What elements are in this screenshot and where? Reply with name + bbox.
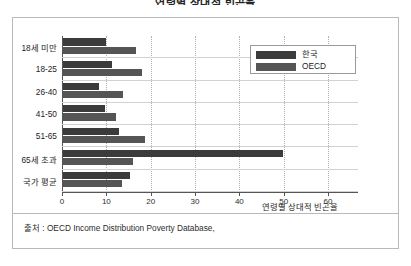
bar-row: 65세 초과	[62, 147, 328, 169]
legend-swatch-oecd	[256, 63, 296, 71]
chart-screenshot: 연령별 상대적 빈곤율 0102030405060 18세 미만18-2526-…	[0, 0, 411, 266]
x-tick-60	[328, 193, 329, 196]
x-tick-label-10: 10	[102, 197, 111, 206]
x-tick-20	[151, 193, 152, 196]
bar-oecd	[63, 136, 145, 143]
bar-row: 51-65	[62, 125, 328, 147]
bar-korea	[63, 105, 105, 112]
category-label: 26-40	[36, 87, 57, 97]
category-label: 51-65	[36, 131, 57, 141]
bar-oecd	[63, 47, 136, 54]
category-label: 18세 미만	[21, 41, 57, 53]
bar-korea	[63, 128, 119, 135]
x-tick-label-40: 40	[235, 197, 244, 206]
bar-oecd	[63, 113, 116, 120]
chart-title: 연령별 상대적 빈곤율	[0, 0, 411, 5]
bar-oecd	[63, 69, 142, 76]
bar-korea	[63, 38, 106, 45]
bar-oecd	[63, 91, 123, 98]
chart-legend: 한국 OECD	[250, 45, 356, 74]
x-tick-0	[62, 193, 63, 196]
category-label: 65세 초과	[21, 153, 57, 165]
x-tick-10	[106, 193, 107, 196]
bar-row: 41-50	[62, 103, 328, 125]
legend-label-oecd: OECD	[302, 61, 326, 72]
source-divider	[12, 213, 399, 214]
category-label: 41-50	[36, 109, 57, 119]
x-tick-label-0: 0	[60, 197, 64, 206]
legend-swatch-korea	[256, 51, 296, 59]
bar-row: 국가 평균	[62, 170, 328, 192]
bar-oecd	[63, 180, 122, 187]
x-tick-50	[284, 193, 285, 196]
x-tick-40	[239, 193, 240, 196]
bar-korea	[63, 61, 112, 68]
x-axis-title: 연령별 상대적 빈곤율	[262, 200, 339, 212]
category-label: 국가 평균	[23, 175, 57, 187]
x-tick-30	[195, 193, 196, 196]
bar-oecd	[63, 158, 133, 165]
bar-korea	[63, 172, 130, 179]
x-tick-label-20: 20	[146, 197, 155, 206]
bar-korea	[63, 83, 99, 90]
bar-korea	[63, 150, 283, 157]
legend-item-korea: 한국	[256, 49, 352, 60]
category-label: 18-25	[36, 64, 57, 74]
row-separator	[62, 191, 358, 192]
source-note: 출처 : OECD Income Distribution Poverty Da…	[24, 221, 215, 233]
x-tick-label-30: 30	[191, 197, 200, 206]
legend-label-korea: 한국	[302, 49, 318, 60]
bar-row: 26-40	[62, 81, 328, 103]
legend-item-oecd: OECD	[256, 61, 352, 72]
